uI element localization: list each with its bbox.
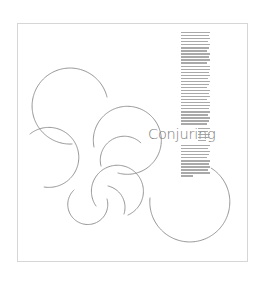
- body-text-line: [181, 99, 207, 100]
- arc-g: [150, 168, 230, 242]
- arc-b: [30, 127, 79, 187]
- body-text-line: [181, 169, 208, 170]
- body-text-line: [181, 117, 210, 118]
- body-text-line: [181, 62, 207, 63]
- body-text-line: [181, 32, 210, 33]
- body-text-line: [181, 151, 210, 152]
- body-text-line: [181, 75, 210, 76]
- body-text-line: [181, 160, 210, 161]
- body-text-line: [181, 38, 210, 39]
- body-text-line: [181, 87, 207, 88]
- body-text-line: [181, 145, 210, 146]
- body-text-line: [198, 137, 209, 138]
- body-text-line: [181, 166, 210, 167]
- body-text-line: [181, 157, 207, 158]
- body-text-line: [181, 35, 209, 36]
- body-text-line: [181, 111, 210, 112]
- body-text-line: [181, 90, 210, 91]
- body-text-line: [181, 120, 209, 121]
- body-text-line: [181, 44, 210, 45]
- body-text-line: [181, 175, 193, 176]
- body-text-line: [181, 93, 209, 94]
- body-text-line: [181, 84, 209, 85]
- body-text-column-side: [198, 128, 210, 143]
- body-text-line: [198, 140, 206, 141]
- body-text-line: [181, 102, 210, 103]
- body-text-line: [181, 53, 210, 54]
- body-text-line: [181, 105, 210, 106]
- arc-e: [91, 165, 143, 215]
- body-text-line: [181, 69, 210, 70]
- arc-f: [68, 190, 108, 225]
- body-text-line: [181, 56, 209, 57]
- body-text-line: [181, 50, 207, 51]
- body-text-line: [181, 72, 209, 73]
- circle-arcs-graphic: [0, 0, 263, 283]
- body-text-column-lower: [181, 145, 210, 179]
- arc-a: [32, 68, 107, 144]
- body-text-line: [181, 66, 210, 67]
- body-text-column-upper: [181, 32, 210, 126]
- body-text-line: [181, 59, 210, 60]
- body-text-line: [181, 78, 208, 79]
- body-text-line: [198, 134, 210, 135]
- body-text-line: [181, 81, 210, 82]
- body-text-line: [181, 148, 208, 149]
- body-text-line: [181, 41, 208, 42]
- body-text-line: [181, 114, 208, 115]
- body-text-line: [181, 154, 209, 155]
- body-text-line: [181, 172, 210, 173]
- arc-e-tail: [108, 186, 125, 214]
- body-text-line: [181, 123, 207, 124]
- arc-d: [100, 136, 141, 166]
- body-text-line: [198, 131, 208, 132]
- body-text-line: [181, 47, 209, 48]
- body-text-line: [198, 128, 210, 129]
- body-text-line: [181, 163, 209, 164]
- body-text-line: [181, 108, 209, 109]
- body-text-line: [181, 96, 210, 97]
